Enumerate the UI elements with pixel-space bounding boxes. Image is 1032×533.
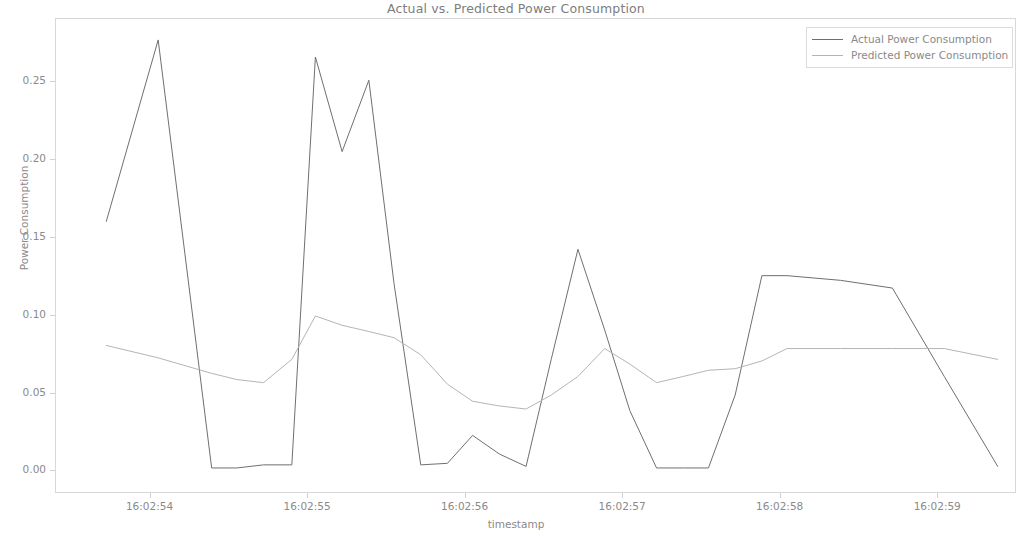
x-tick-mark	[780, 493, 781, 498]
legend-item-actual: Actual Power Consumption	[812, 31, 1007, 47]
y-tick-label: 0.10	[0, 308, 46, 320]
x-tick-label: 16:02:56	[441, 500, 488, 512]
x-tick-mark	[150, 493, 151, 498]
legend-swatch-actual	[812, 39, 843, 40]
plot-lines	[56, 19, 1015, 492]
x-axis-label: timestamp	[0, 518, 1032, 530]
x-tick-mark	[465, 493, 466, 498]
x-tick-label: 16:02:54	[126, 500, 173, 512]
x-tick-mark	[622, 493, 623, 498]
chart-legend: Actual Power Consumption Predicted Power…	[806, 27, 1013, 68]
chart-figure: Actual vs. Predicted Power Consumption P…	[0, 0, 1032, 533]
line-actual-power	[106, 40, 997, 468]
y-tick-label: 0.15	[0, 230, 46, 242]
y-tick-label: 0.25	[0, 74, 46, 86]
x-tick-mark	[307, 493, 308, 498]
x-tick-mark	[937, 493, 938, 498]
y-tick-label: 0.20	[0, 152, 46, 164]
y-tick-label: 0.05	[0, 386, 46, 398]
y-tick-label: 0.00	[0, 463, 46, 475]
legend-item-predicted: Predicted Power Consumption	[812, 47, 1007, 63]
y-axis-label: Power Consumption	[18, 118, 30, 318]
legend-label-predicted: Predicted Power Consumption	[851, 49, 1008, 61]
x-tick-label: 16:02:57	[599, 500, 646, 512]
chart-title: Actual vs. Predicted Power Consumption	[0, 1, 1032, 16]
legend-label-actual: Actual Power Consumption	[851, 33, 992, 45]
x-tick-label: 16:02:55	[283, 500, 330, 512]
line-predicted-power	[106, 316, 997, 409]
x-tick-label: 16:02:58	[756, 500, 803, 512]
plot-area	[55, 18, 1016, 493]
x-tick-label: 16:02:59	[914, 500, 961, 512]
legend-swatch-predicted	[812, 55, 843, 56]
